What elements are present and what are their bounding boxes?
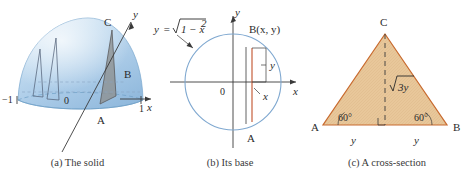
base-x-axis-label: x [292, 85, 298, 97]
base-segment-x-label: x [262, 90, 268, 102]
equation-exponent: 2 [201, 17, 207, 29]
base-point-a-label: A [247, 132, 255, 144]
base-label-left: y [350, 134, 356, 146]
triangle-vertex-b: B [453, 121, 460, 133]
height-value: 3y [397, 81, 409, 93]
panel-its-base: y = 1 − x 2 y x 0 B(x, y) y [150, 0, 310, 175]
triangle-vertex-c: C [380, 16, 387, 28]
panel-cross-section: 3y C A B 60° 60° y y (c) A cross-section [310, 0, 464, 175]
panel-b-caption: (b) Its base [150, 157, 310, 168]
base-label-right: y [413, 134, 419, 146]
base-origin-label: 0 [220, 86, 225, 97]
solid-origin-label: 0 [64, 95, 69, 106]
solid-point-c-label: C [104, 16, 111, 28]
textbook-figure: y x −1 1 0 A B C (a) The solid [0, 0, 464, 175]
vertical-chord [246, 47, 252, 124]
base-segment-y-label: y [269, 59, 275, 71]
base-diagram: y = 1 − x 2 y x 0 B(x, y) y [150, 0, 310, 175]
base-axes [170, 16, 296, 148]
equation-leader-line [177, 35, 193, 48]
solid-point-a-label: A [97, 114, 105, 126]
equation-y: y [153, 23, 159, 35]
cross-section-diagram: 3y C A B 60° 60° y y [310, 0, 464, 175]
x-leader-line [254, 88, 260, 94]
solid-point-b-label: B [124, 68, 131, 80]
curve-equation-label: y = 1 − x 2 [153, 17, 207, 35]
equation-equals: = [163, 23, 170, 35]
base-point-b-label: B(x, y) [249, 23, 281, 36]
triangle-vertex-a: A [311, 121, 319, 133]
base-y-axis-label: y [234, 6, 240, 18]
solid-body [18, 18, 143, 109]
solid-right-tick-label: 1 [139, 103, 144, 114]
panel-a-caption: (a) The solid [0, 157, 155, 168]
solid-diagram: y x −1 1 0 A B C [0, 0, 155, 175]
solid-left-tick-label: −1 [2, 94, 13, 105]
angle-label-left: 60° [338, 112, 352, 123]
y-segment-bracket [252, 48, 266, 82]
panel-the-solid: y x −1 1 0 A B C (a) The solid [0, 0, 155, 175]
solid-y-axis-label: y [132, 8, 138, 20]
panel-c-caption: (c) A cross-section [310, 157, 464, 168]
angle-label-right: 60° [414, 112, 428, 123]
